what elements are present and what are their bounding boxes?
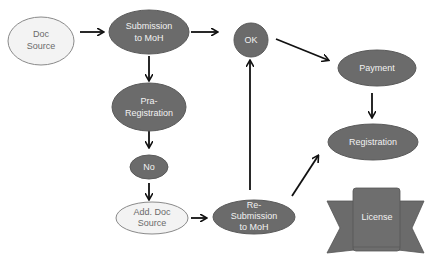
node-payment: Payment bbox=[338, 50, 416, 86]
node-doc-source-line2: Source bbox=[27, 41, 56, 51]
node-payment-label: Payment bbox=[359, 63, 395, 73]
node-add-doc-source-line2: Source bbox=[138, 218, 167, 228]
node-registration-label: Registration bbox=[349, 137, 397, 147]
node-resubmission-line3: to MoH bbox=[239, 222, 268, 232]
node-add-doc-source: Add. Doc Source bbox=[116, 202, 188, 234]
node-submission-line1: Submission bbox=[126, 21, 173, 31]
node-resubmission: Re- Submission to MoH bbox=[213, 200, 295, 234]
license-ribbon-left bbox=[327, 201, 354, 253]
node-pre-registration-line2: Registration bbox=[125, 108, 173, 118]
node-doc-source: Doc Source bbox=[8, 17, 74, 65]
edge-ok-to-payment bbox=[276, 39, 328, 60]
flow-diagram: Doc Source Submission to MoH Pra- Regist… bbox=[0, 0, 437, 268]
node-add-doc-source-line1: Add. Doc bbox=[133, 207, 171, 217]
node-pre-registration: Pra- Registration bbox=[112, 83, 186, 131]
node-registration: Registration bbox=[328, 124, 418, 160]
node-submission-line2: to MoH bbox=[134, 33, 163, 43]
node-license: License bbox=[327, 188, 424, 253]
node-no: No bbox=[130, 155, 168, 179]
node-ok-label: OK bbox=[244, 35, 257, 45]
node-license-label: License bbox=[361, 212, 392, 222]
node-doc-source-line1: Doc bbox=[33, 29, 50, 39]
node-resubmission-line1: Re- bbox=[247, 200, 262, 210]
node-no-label: No bbox=[143, 162, 155, 172]
license-ribbon-right bbox=[398, 201, 424, 253]
node-submission: Submission to MoH bbox=[109, 10, 189, 54]
node-ok: OK bbox=[234, 23, 268, 57]
edge-resubmission-to-registration bbox=[292, 156, 318, 196]
node-pre-registration-line1: Pra- bbox=[140, 96, 157, 106]
node-resubmission-line2: Submission bbox=[231, 211, 278, 221]
